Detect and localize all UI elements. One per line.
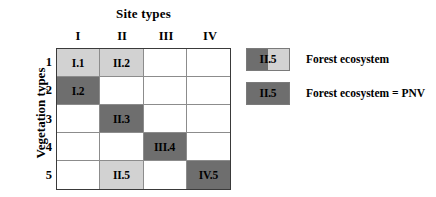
column-header-1: I: [56, 28, 100, 45]
legend-label: Forest ecosystem: [306, 48, 389, 71]
matrix-cell: II.5: [100, 161, 143, 189]
matrix-cell: [100, 133, 143, 161]
row-header-column: 1 2 3 4 5: [34, 48, 52, 190]
matrix-grid: I.1 II.2 I.2 II.3 III.4 II.5 IV.5: [56, 48, 231, 190]
legend-swatch-label: II.5: [260, 53, 277, 65]
matrix-cell: III.4: [144, 133, 187, 161]
column-header-row: I II III IV: [56, 28, 232, 45]
matrix-cell: [144, 161, 187, 189]
legend-label: Forest ecosystem = PNV: [306, 82, 425, 105]
matrix-cell: [144, 105, 187, 133]
column-group-title: Site types: [56, 6, 231, 22]
matrix-cell: IV.5: [187, 161, 230, 189]
row-header-3: 3: [34, 105, 52, 133]
matrix-cell: II.3: [100, 105, 143, 133]
matrix-cell: [57, 161, 100, 189]
matrix-cell: [187, 105, 230, 133]
row-header-2: 2: [34, 76, 52, 104]
legend: II.5 Forest ecosystem II.5 Forest ecosys…: [246, 46, 436, 116]
matrix-cell: [187, 77, 230, 105]
matrix-cell: [57, 133, 100, 161]
row-header-5: 5: [34, 162, 52, 190]
matrix-cell: [187, 49, 230, 77]
legend-item: II.5 Forest ecosystem: [246, 46, 389, 72]
column-header-3: III: [144, 28, 188, 45]
matrix-cell: I.1: [57, 49, 100, 77]
matrix-cell: [57, 105, 100, 133]
matrix-cell: [100, 77, 143, 105]
row-header-1: 1: [34, 48, 52, 76]
legend-item: II.5 Forest ecosystem = PNV: [246, 80, 425, 106]
legend-swatch-forest-ecosystem: II.5: [246, 48, 290, 71]
column-header-4: IV: [188, 28, 232, 45]
matrix-cell: [144, 77, 187, 105]
matrix-cell: [187, 133, 230, 161]
matrix-cell: II.2: [100, 49, 143, 77]
matrix-cell: I.2: [57, 77, 100, 105]
legend-swatch-forest-ecosystem-pnv: II.5: [246, 82, 290, 105]
row-header-4: 4: [34, 133, 52, 161]
column-header-2: II: [100, 28, 144, 45]
matrix-cell: [144, 49, 187, 77]
matrix-figure: Site types I II III IV Vegetation types …: [0, 0, 436, 197]
legend-swatch-label: II.5: [260, 87, 277, 99]
